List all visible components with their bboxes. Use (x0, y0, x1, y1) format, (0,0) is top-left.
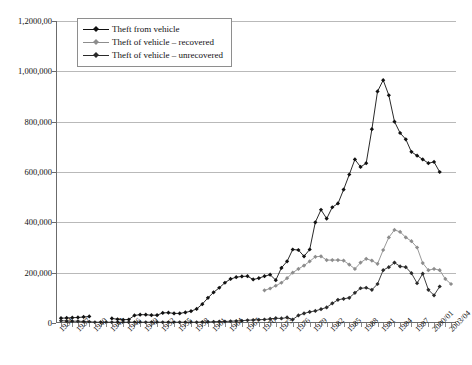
data-point-marker (240, 274, 244, 278)
data-point-marker (375, 89, 379, 93)
data-point-marker (387, 93, 391, 97)
series-line (265, 230, 452, 290)
data-point-marker (313, 220, 317, 224)
data-point-marker (330, 258, 334, 262)
data-point-marker (144, 313, 148, 317)
data-point-marker (381, 78, 385, 82)
data-point-marker (392, 120, 396, 124)
data-point-marker (342, 297, 346, 301)
series-3 (59, 261, 442, 325)
data-point-marker (161, 311, 165, 315)
data-point-marker (291, 247, 295, 251)
legend-item-2[interactable]: Theft of vehicle – recovered (83, 36, 223, 49)
data-point-marker (370, 258, 374, 262)
data-point-marker (432, 160, 436, 164)
data-point-marker (342, 188, 346, 192)
data-point-marker (336, 298, 340, 302)
data-point-marker (155, 313, 159, 317)
series-2 (262, 228, 453, 293)
data-point-marker (308, 310, 312, 314)
data-point-marker (138, 313, 142, 317)
data-point-marker (364, 286, 368, 290)
x-axis-labels: 1934193719401943194619491952195519581961… (0, 326, 466, 365)
data-point-marker (381, 248, 385, 252)
data-point-marker (178, 311, 182, 315)
data-point-marker (166, 311, 170, 315)
legend-marker-icon (83, 50, 109, 61)
legend-item-1[interactable]: Theft from vehicle (83, 23, 223, 36)
series-1 (59, 78, 442, 322)
data-point-marker (347, 172, 351, 176)
legend-label: Theft of vehicle – recovered (112, 38, 214, 47)
data-point-marker (336, 258, 340, 262)
data-point-marker (183, 310, 187, 314)
legend-item-3[interactable]: Theft of vehicle – unrecovered (83, 49, 223, 62)
legend-marker-icon (83, 37, 109, 48)
data-point-marker (110, 316, 114, 320)
data-point-marker (76, 315, 80, 319)
data-point-marker (172, 311, 176, 315)
data-point-marker (438, 170, 442, 174)
data-point-marker (313, 309, 317, 313)
data-point-marker (262, 274, 266, 278)
data-point-marker (257, 276, 261, 280)
data-point-marker (325, 216, 329, 220)
data-point-marker (432, 267, 436, 271)
data-point-marker (234, 275, 238, 279)
data-point-marker (381, 268, 385, 272)
data-point-marker (319, 208, 323, 212)
data-point-marker (319, 307, 323, 311)
data-point-marker (189, 309, 193, 313)
chart-legend: Theft from vehicleTheft of vehicle – rec… (77, 18, 232, 67)
data-point-marker (251, 277, 255, 281)
legend-marker-icon (83, 24, 109, 35)
data-point-marker (370, 127, 374, 131)
legend-label: Theft of vehicle – unrecovered (112, 51, 223, 60)
data-point-marker (262, 288, 266, 292)
data-point-marker (421, 272, 425, 276)
data-point-marker (274, 284, 278, 288)
data-point-marker (245, 274, 249, 278)
legend-label: Theft from vehicle (112, 25, 179, 34)
data-point-marker (268, 286, 272, 290)
data-point-marker (415, 281, 419, 285)
data-point-marker (375, 262, 379, 266)
